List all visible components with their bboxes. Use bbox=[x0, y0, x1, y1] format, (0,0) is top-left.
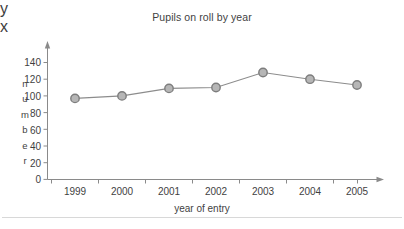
data-point: 2000: 100 bbox=[118, 92, 126, 100]
data-point: 1999: 97 bbox=[71, 94, 79, 102]
data-point: 2002: 110 bbox=[212, 83, 220, 91]
data-point: 2005: 113 bbox=[353, 81, 361, 89]
y-axis bbox=[44, 41, 51, 180]
footer-divider bbox=[2, 217, 402, 218]
x-axis bbox=[48, 177, 385, 184]
data-point: 2004: 120 bbox=[306, 75, 314, 83]
plot-area: 1999: 972000: 1002001: 1092002: 1102003:… bbox=[0, 0, 404, 229]
y-axis-ticks bbox=[44, 63, 48, 180]
chart-figure: Pupils on roll by year y x n u m b e r y… bbox=[0, 0, 404, 229]
x-axis-ticks bbox=[52, 180, 358, 184]
data-point: 2001: 109 bbox=[165, 84, 173, 92]
data-point: 2003: 128 bbox=[259, 68, 267, 76]
data-markers: 1999: 972000: 1002001: 1092002: 1102003:… bbox=[71, 68, 361, 102]
